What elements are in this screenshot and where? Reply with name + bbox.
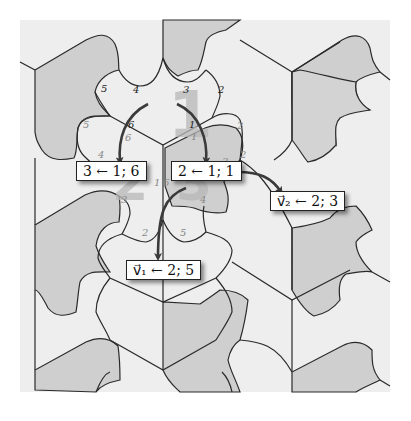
assignment-text: v⃗₁ ← 2; 5 [133, 262, 194, 278]
edge-label: 1 [154, 177, 160, 188]
assignment-text: 2 ← 1; 1 [178, 163, 235, 179]
edge-label: 2 [217, 84, 224, 95]
assignment-text: 3 ← 1; 6 [83, 163, 140, 179]
assignment-box-v2: v⃗₂ ← 2; 3 [270, 191, 345, 211]
tiling-canvas: 1 2 3 5 4 3 2 5 6 6 1 1 2 2 4 3 1 6 3 4 … [0, 0, 411, 421]
edge-label: 5 [101, 83, 107, 94]
assignment-box-3: 3 ← 1; 6 [76, 161, 147, 181]
assignment-box-2: 2 ← 1; 1 [171, 161, 242, 181]
edge-label: 2 [236, 120, 243, 131]
tiling-diagram: 1 2 3 5 4 3 2 5 6 6 1 1 2 2 4 3 1 6 3 4 … [0, 0, 411, 421]
assignment-box-v1: v⃗₁ ← 2; 5 [126, 260, 201, 280]
edge-label: 4 [132, 84, 139, 95]
edge-label: 4 [97, 149, 104, 160]
edge-label: 1 [191, 131, 197, 142]
edge-label: 5 [83, 119, 89, 130]
edge-label: 1 [189, 119, 195, 130]
edge-label: 2 [141, 227, 148, 238]
edge-label: 4 [199, 194, 206, 205]
edge-label: 3 [121, 194, 127, 205]
edge-label: 3 [183, 84, 189, 95]
assignment-text: v⃗₂ ← 2; 3 [277, 193, 338, 209]
edge-label: 2 [239, 149, 246, 160]
edge-label: 5 [180, 227, 186, 238]
edge-label: 6 [163, 177, 170, 188]
edge-label: 6 [125, 132, 132, 143]
